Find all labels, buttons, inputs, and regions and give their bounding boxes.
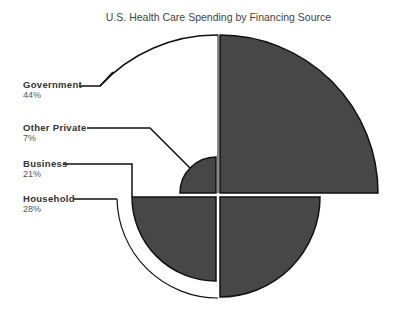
label-business-name: Business [23, 159, 68, 169]
label-household: Household 28% [23, 194, 75, 214]
label-government: Government 44% [23, 80, 82, 100]
label-other-private-value: 7% [23, 133, 87, 143]
government-outline-arc [100, 35, 218, 86]
label-other-private-name: Other Private [23, 123, 87, 133]
label-government-value: 44% [23, 90, 82, 100]
business-quarter [132, 197, 216, 281]
label-business-value: 21% [23, 169, 68, 179]
bottom-right-quarter [220, 197, 320, 297]
top-right-quarter [220, 35, 378, 193]
label-household-name: Household [23, 194, 75, 204]
label-other-private: Other Private 7% [23, 123, 87, 143]
other-private-leader-line [87, 128, 190, 168]
label-government-name: Government [23, 80, 82, 90]
label-household-value: 28% [23, 204, 75, 214]
label-business: Business 21% [23, 159, 68, 179]
